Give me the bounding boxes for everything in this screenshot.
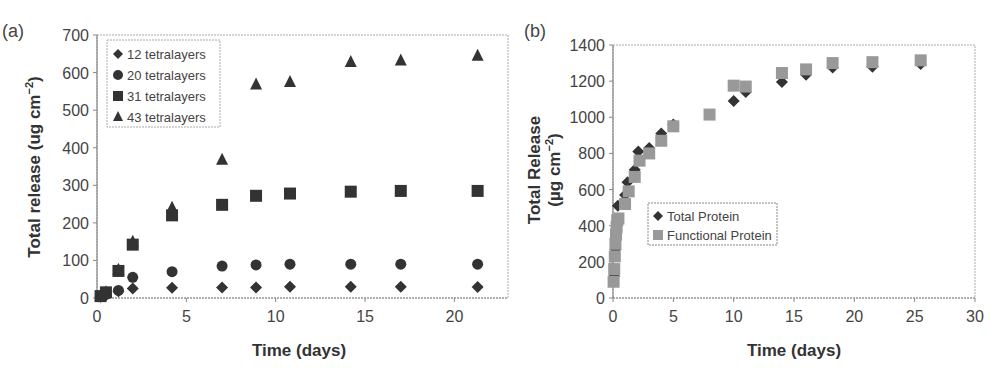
x-tick-label: 10	[267, 308, 285, 325]
x-tick-label: 25	[906, 308, 924, 325]
data-point	[612, 212, 624, 224]
x-tick-label: 20	[445, 308, 463, 325]
data-point	[643, 147, 655, 159]
x-axis-title-b: Time (days)	[747, 341, 841, 360]
y-tick-label: 1400	[569, 37, 605, 54]
data-point	[623, 185, 635, 197]
data-point	[472, 49, 484, 61]
data-point	[216, 153, 228, 165]
data-point	[915, 54, 927, 66]
legend-b: Total ProteinFunctional Protein	[648, 203, 777, 245]
data-point	[827, 57, 839, 69]
panel-label-b: (b)	[524, 21, 546, 41]
data-points-b	[608, 54, 927, 287]
y-tick-label: 500	[62, 102, 89, 119]
data-point	[704, 109, 716, 121]
y-axis-title-b-line2: (µg cm−2)	[543, 133, 564, 206]
plot-area-b	[613, 45, 975, 298]
data-point	[250, 78, 262, 90]
data-point	[166, 282, 178, 294]
legend-label: Functional Protein	[667, 228, 772, 243]
data-point	[251, 259, 262, 270]
data-point	[250, 190, 262, 202]
y-tick-label: 1200	[569, 73, 605, 90]
chart-b: (b) 0200400600800100012001400 0510152025…	[524, 21, 984, 360]
legend-label: 43 tetralayers	[127, 110, 206, 125]
legend-label: 12 tetralayers	[127, 47, 206, 62]
y-axis-title-b-line1: Total Release	[525, 116, 544, 224]
data-point	[284, 259, 295, 270]
data-point	[472, 185, 484, 197]
data-point	[608, 263, 620, 275]
data-point	[113, 285, 124, 296]
figure: (a) 0100200300400500600700 05101520 Time…	[0, 0, 1007, 384]
legend-label: 31 tetralayers	[127, 89, 206, 104]
data-point	[250, 281, 262, 293]
y-tick-label: 600	[578, 182, 605, 199]
data-point	[395, 259, 406, 270]
x-tick-label: 15	[356, 308, 374, 325]
x-tick-label: 15	[785, 308, 803, 325]
x-tick-label: 10	[725, 308, 743, 325]
x-tick-label: 0	[609, 308, 618, 325]
y-tick-label: 100	[62, 252, 89, 269]
y-tick-label: 300	[62, 177, 89, 194]
data-point	[629, 171, 641, 183]
data-point	[127, 283, 139, 295]
data-point	[472, 281, 484, 293]
y-tick-label: 1000	[569, 109, 605, 126]
x-tick-label: 5	[182, 308, 191, 325]
y-axis-title-a: Total release (ug cm−2)	[23, 76, 44, 257]
data-point	[345, 259, 356, 270]
x-ticks-a: 05101520	[93, 298, 464, 325]
y-tick-label: 200	[62, 215, 89, 232]
data-point	[167, 266, 178, 277]
y-tick-label: 800	[578, 145, 605, 162]
data-point	[345, 55, 357, 67]
legend-a: 12 tetralayers20 tetralayers31 tetralaye…	[107, 40, 220, 127]
y-tick-label: 700	[62, 27, 89, 44]
legend-marker-icon	[113, 91, 123, 101]
data-point	[395, 54, 407, 66]
data-point	[740, 81, 752, 93]
legend-label: Total Protein	[667, 209, 739, 224]
legend-label: 20 tetralayers	[127, 68, 206, 83]
x-tick-label: 0	[93, 308, 102, 325]
data-point	[216, 281, 228, 293]
y-tick-label: 400	[578, 218, 605, 235]
legend-marker-icon	[653, 230, 663, 240]
x-axis-title-a: Time (days)	[252, 341, 346, 360]
data-point	[345, 186, 357, 198]
x-ticks-b: 051015202530	[609, 298, 984, 325]
data-point	[472, 259, 483, 270]
data-point	[619, 198, 631, 210]
x-tick-label: 30	[966, 308, 984, 325]
y-tick-label: 0	[596, 290, 605, 307]
data-point	[284, 75, 296, 87]
data-point	[395, 281, 407, 293]
chart-a: (a) 0100200300400500600700 05101520 Time…	[2, 21, 508, 360]
legend-marker-icon	[113, 70, 123, 80]
x-tick-label: 20	[845, 308, 863, 325]
panel-label-a: (a)	[2, 21, 24, 41]
data-point	[284, 281, 296, 293]
y-tick-label: 400	[62, 140, 89, 157]
y-tick-label: 0	[80, 290, 89, 307]
data-point	[345, 281, 357, 293]
data-point	[776, 67, 788, 79]
y-ticks-b: 0200400600800100012001400	[569, 37, 613, 307]
data-point	[609, 250, 621, 262]
data-point	[608, 276, 620, 288]
data-point	[800, 63, 812, 75]
data-point	[216, 199, 228, 211]
data-point	[166, 201, 178, 213]
y-tick-label: 600	[62, 65, 89, 82]
y-tick-label: 200	[578, 254, 605, 271]
data-point	[655, 135, 667, 147]
data-point	[127, 272, 138, 283]
data-point	[866, 56, 878, 68]
data-point	[728, 80, 740, 92]
data-point	[395, 185, 407, 197]
data-point	[728, 95, 740, 107]
data-point	[667, 120, 679, 132]
